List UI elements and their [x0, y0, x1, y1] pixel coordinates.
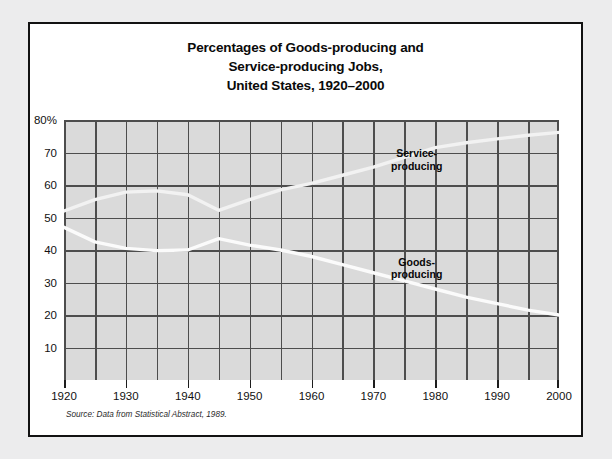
x-axis-tick-label: 1990: [484, 390, 510, 402]
series-line: [64, 227, 559, 315]
chart-title-line-1: Percentages of Goods-producing and: [30, 38, 581, 57]
source-prefix: Source: Data from: [66, 410, 135, 419]
figure-card: Percentages of Goods-producing and Servi…: [28, 22, 583, 437]
source-suffix: , 1989.: [202, 410, 227, 419]
x-axis-tick-label: 1950: [237, 390, 263, 402]
chart-title-line-2: Service-producing Jobs,: [30, 57, 581, 76]
y-axis-tick-label: 50: [44, 212, 57, 224]
x-axis-tick-mark: [312, 380, 314, 388]
x-axis-tick-label: 1970: [361, 390, 387, 402]
x-axis-tick-label: 1960: [299, 390, 325, 402]
x-axis-tick-mark: [250, 380, 252, 388]
plot-area: [64, 120, 559, 380]
series-label: Service- producing: [391, 147, 442, 172]
source-work-title: Statistical Abstract: [135, 410, 202, 419]
series-line: [64, 132, 559, 211]
x-axis-tick-mark: [557, 380, 559, 388]
chart-title: Percentages of Goods-producing and Servi…: [30, 38, 581, 95]
x-axis-tick-mark: [497, 380, 499, 388]
y-axis-tick-label: 80%: [34, 114, 57, 126]
x-axis-tick-mark: [126, 380, 128, 388]
x-axis-tick-label: 2000: [546, 390, 572, 402]
chart-title-line-3: United States, 1920–2000: [30, 76, 581, 95]
x-axis-tick-mark: [188, 380, 190, 388]
x-axis-tick-label: 1940: [175, 390, 201, 402]
source-note: Source: Data from Statistical Abstract, …: [66, 410, 227, 419]
y-axis-tick-label: 10: [44, 342, 57, 354]
y-axis-tick-label: 70: [44, 147, 57, 159]
x-axis-tick-mark: [373, 380, 375, 388]
x-axis-tick-label: 1980: [422, 390, 448, 402]
y-axis-tick-label: 30: [44, 277, 57, 289]
series-lines: [64, 120, 559, 380]
x-axis-tick-label: 1930: [113, 390, 139, 402]
y-axis-tick-label: 60: [44, 179, 57, 191]
x-axis-tick-mark: [64, 380, 66, 388]
y-axis-tick-label: 40: [44, 244, 57, 256]
y-axis-tick-label: 20: [44, 309, 57, 321]
plot-wrapper: 80%70605040302010 1920193019401950196019…: [64, 120, 559, 380]
x-axis-tick-mark: [435, 380, 437, 388]
series-label: Goods- producing: [391, 255, 442, 280]
x-axis-tick-label: 1920: [51, 390, 77, 402]
